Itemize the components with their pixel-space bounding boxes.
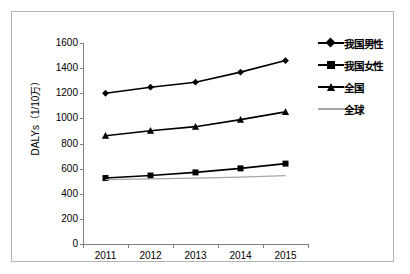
x-axis-tick-label: 2012 [128, 250, 174, 261]
legend-item-2[interactable]: 全国 [318, 76, 394, 98]
legend-label: 全国 [344, 80, 364, 95]
x-axis-tick-label: 2011 [83, 250, 129, 261]
data-point-marker [147, 84, 154, 91]
x-axis-line [83, 244, 309, 245]
legend-key-icon [318, 81, 344, 93]
y-axis-tick-label: 400 [34, 189, 78, 199]
legend-key-icon [318, 37, 344, 49]
plot-area [83, 43, 308, 244]
legend-label: 全球 [344, 102, 364, 117]
x-axis-tick [218, 245, 219, 248]
y-axis-title: DALYs（1/10万） [27, 61, 42, 171]
legend-key-icon [318, 103, 344, 115]
legend-line [318, 108, 344, 110]
series-svg [83, 43, 308, 244]
legend-marker-square-icon [327, 61, 335, 69]
x-axis-tick [308, 245, 309, 248]
chart-container: 02004006008001000120014001600 2011201220… [11, 11, 394, 262]
data-point-marker [237, 69, 244, 76]
legend-item-1[interactable]: 我国女性 [318, 54, 394, 76]
chart-legend: 我国男性我国女性全国全球 [318, 32, 394, 120]
legend-label: 我国女性 [344, 58, 383, 73]
data-point-marker [238, 165, 244, 171]
y-axis-tick-label: 0 [34, 239, 78, 249]
legend-key-icon [318, 59, 344, 71]
x-axis-tick [128, 245, 129, 248]
y-axis-tick-label: 200 [34, 214, 78, 224]
data-point-marker [282, 57, 289, 64]
legend-marker-diamond-icon [326, 38, 336, 48]
legend-marker-triangle-icon [327, 83, 335, 91]
y-axis-tick-label: 1600 [34, 38, 78, 48]
data-point-marker [102, 90, 109, 97]
legend-item-3[interactable]: 全球 [318, 98, 394, 120]
x-axis-tick-label: 2014 [218, 250, 264, 261]
x-axis-tick-label: 2015 [263, 250, 309, 261]
x-axis-tick-label: 2013 [173, 250, 219, 261]
x-axis-tick [83, 245, 84, 248]
legend-label: 我国男性 [344, 36, 383, 51]
x-axis-tick [173, 245, 174, 248]
data-point-marker [193, 169, 199, 175]
data-point-marker [283, 161, 289, 167]
x-axis-tick [263, 245, 264, 248]
legend-item-0[interactable]: 我国男性 [318, 32, 394, 54]
series-line [106, 61, 286, 94]
data-point-marker [192, 79, 199, 86]
series-triangle [102, 108, 289, 139]
data-point-marker [148, 173, 154, 179]
series-diamond [102, 57, 289, 96]
